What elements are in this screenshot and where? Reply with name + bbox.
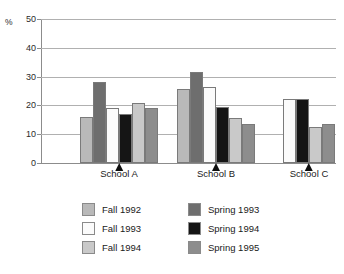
x-axis-category-school-a: School A [100, 163, 138, 179]
bar [309, 127, 322, 163]
y-axis-tick-label: 50 [16, 14, 36, 24]
x-axis-category-label: School B [197, 168, 235, 179]
bar [229, 118, 242, 163]
plot-area: % 01020304050 School ASchool BSchool C [0, 8, 344, 168]
cropped-title-remnant [0, 0, 344, 7]
legend-label: Spring 1995 [208, 242, 259, 253]
y-axis-tick-mark [37, 77, 41, 78]
legend-label: Fall 1992 [102, 204, 141, 215]
y-axis-line [41, 19, 42, 163]
legend-color-swatch [188, 241, 201, 254]
legend-item: Fall 1992 [82, 203, 188, 216]
legend-item: Spring 1994 [188, 222, 312, 235]
bar [119, 114, 132, 163]
bar [216, 107, 229, 163]
bar [242, 124, 255, 163]
y-axis-tick-mark [37, 105, 41, 106]
y-axis-tick-label: 20 [16, 100, 36, 110]
legend-color-swatch [188, 203, 201, 216]
x-axis-category-school-c: School C [290, 163, 329, 179]
legend-label: Fall 1994 [102, 242, 141, 253]
x-axis-category-label: School A [100, 168, 138, 179]
legend-label: Spring 1993 [208, 204, 259, 215]
legend-color-swatch [82, 241, 95, 254]
legend-item: Spring 1995 [188, 241, 312, 254]
y-axis-tick-label: 10 [16, 129, 36, 139]
bar [93, 82, 106, 163]
y-axis-tick-label: 40 [16, 43, 36, 53]
y-axis-tick-label: 0 [16, 158, 36, 168]
legend-item: Spring 1993 [188, 203, 312, 216]
legend-color-swatch [82, 222, 95, 235]
bar-chart-figure: % 01020304050 School ASchool BSchool C F… [0, 0, 344, 274]
bar [190, 72, 203, 163]
plot-canvas [41, 19, 336, 163]
x-axis-category-labels: School ASchool BSchool C [41, 163, 336, 193]
bar [203, 87, 216, 163]
gridline [41, 77, 336, 78]
bar [145, 108, 158, 163]
x-axis-category-school-b: School B [197, 163, 235, 179]
bar [283, 99, 296, 163]
chart-legend: Fall 1992Spring 1993Fall 1993Spring 1994… [82, 200, 312, 257]
bar [177, 89, 190, 163]
x-axis-category-label: School C [290, 168, 329, 179]
legend-label: Spring 1994 [208, 223, 259, 234]
y-axis-unit-label: % [5, 17, 13, 27]
bar [80, 117, 93, 163]
legend-color-swatch [188, 222, 201, 235]
bar [106, 108, 119, 163]
bar [132, 103, 145, 163]
gridline [41, 48, 336, 49]
legend-color-swatch [82, 203, 95, 216]
legend-item: Fall 1994 [82, 241, 188, 254]
y-axis-tick-label: 30 [16, 72, 36, 82]
gridline [41, 19, 336, 20]
y-axis-tick-mark [37, 134, 41, 135]
legend-item: Fall 1993 [82, 222, 188, 235]
legend-label: Fall 1993 [102, 223, 141, 234]
y-axis-tick-mark [37, 48, 41, 49]
bar [322, 124, 335, 163]
y-axis-tick-mark [37, 19, 41, 20]
y-axis-tick-labels: 01020304050 [14, 8, 36, 168]
bar [296, 99, 309, 163]
